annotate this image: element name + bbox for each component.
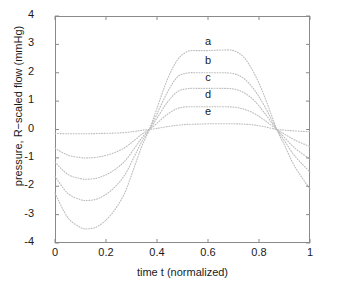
curve-a — [55, 50, 310, 229]
curve-label-d: d — [200, 88, 216, 100]
curve-label-a: a — [200, 35, 216, 47]
y-tick-label: -4 — [0, 235, 34, 247]
y-tick-label: -1 — [0, 150, 34, 162]
curve-b — [55, 73, 310, 201]
x-tick-label: 0 — [35, 246, 75, 258]
y-tick-label: -2 — [0, 178, 34, 190]
y-tick-label: 1 — [0, 93, 34, 105]
x-tick-label: 0.6 — [188, 246, 228, 258]
y-tick-label: 3 — [0, 36, 34, 48]
curve-label-b: b — [200, 54, 216, 66]
axis-ticks — [55, 16, 310, 243]
curve-e — [55, 124, 310, 134]
chart-canvas — [0, 0, 349, 288]
y-tick-label: 0 — [0, 122, 34, 134]
data-curves — [55, 50, 310, 229]
x-tick-label: 0.2 — [86, 246, 126, 258]
chart-figure: pressure, R−scaled flow (mmHg) time t (n… — [0, 0, 349, 288]
y-tick-label: 2 — [0, 65, 34, 77]
x-tick-label: 0.8 — [239, 246, 279, 258]
curve-label-e: e — [200, 105, 216, 117]
y-tick-label: -3 — [0, 207, 34, 219]
x-tick-label: 1 — [290, 246, 330, 258]
curve-d — [55, 107, 310, 158]
x-axis-label: time t (normalized) — [55, 266, 310, 278]
x-tick-label: 0.4 — [137, 246, 177, 258]
y-tick-label: 4 — [0, 8, 34, 20]
curve-label-c: c — [200, 71, 216, 83]
